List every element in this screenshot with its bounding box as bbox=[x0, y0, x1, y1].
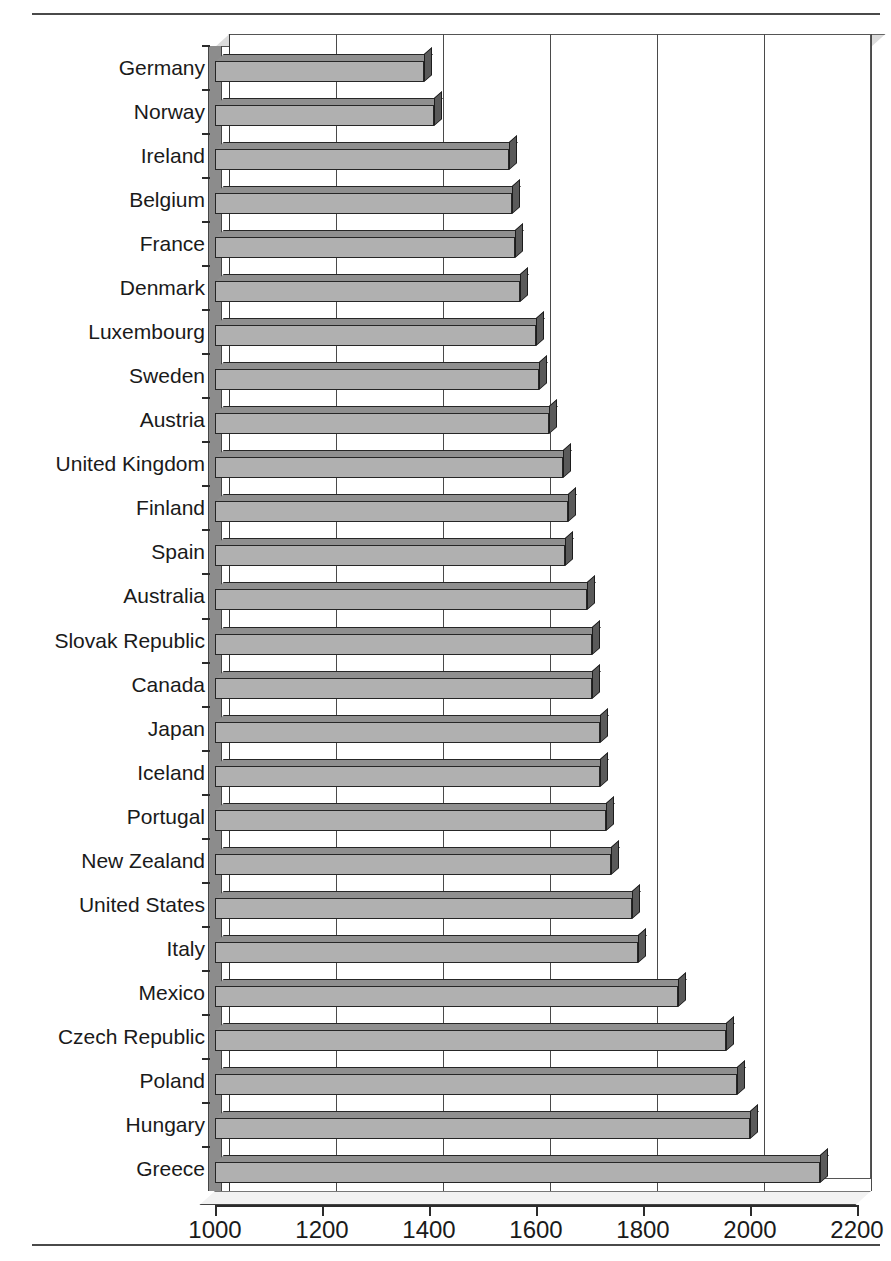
bar-mexico bbox=[215, 979, 691, 1007]
category-label-hungary: Hungary bbox=[5, 1114, 205, 1135]
bar-australia bbox=[215, 582, 600, 610]
category-label-new-zealand: New Zealand bbox=[5, 850, 205, 871]
bar-poland bbox=[215, 1067, 750, 1095]
category-label-japan: Japan bbox=[5, 718, 205, 739]
bar-slovak-republic bbox=[215, 627, 605, 655]
bar-belgium bbox=[215, 186, 525, 214]
bar-front-face bbox=[215, 1030, 726, 1051]
x-tick-label-1200: 1200 bbox=[277, 1216, 367, 1244]
y-axis-category-labels: GermanyNorwayIrelandBelgiumFranceDenmark… bbox=[0, 30, 205, 1230]
bar-germany bbox=[215, 54, 437, 82]
bar-end-cap bbox=[600, 708, 608, 743]
bar-front-face bbox=[215, 61, 424, 82]
y-tick bbox=[202, 573, 210, 575]
bar-front-face bbox=[215, 1162, 820, 1183]
bar-front-face bbox=[215, 545, 565, 566]
bar-denmark bbox=[215, 274, 533, 302]
bar-spain bbox=[215, 538, 578, 566]
category-label-luxembourg: Luxembourg bbox=[5, 321, 205, 342]
y-tick bbox=[202, 794, 210, 796]
y-tick bbox=[202, 1058, 210, 1060]
y-tick bbox=[202, 838, 210, 840]
category-label-czech-republic: Czech Republic bbox=[5, 1026, 205, 1047]
category-label-denmark: Denmark bbox=[5, 277, 205, 298]
y-tick bbox=[202, 309, 210, 311]
bar-ireland bbox=[215, 142, 522, 170]
bar-front-face bbox=[215, 678, 592, 699]
category-label-united-kingdom: United Kingdom bbox=[5, 453, 205, 474]
bar-france bbox=[215, 230, 528, 258]
y-tick bbox=[202, 133, 210, 135]
x-tick-label-1800: 1800 bbox=[598, 1216, 688, 1244]
bar-end-cap bbox=[750, 1104, 758, 1139]
y-tick bbox=[202, 45, 210, 47]
bar-united-states bbox=[215, 891, 645, 919]
bar-end-cap bbox=[606, 796, 614, 831]
x-tick-label-1400: 1400 bbox=[384, 1216, 474, 1244]
bar-norway bbox=[215, 98, 447, 126]
bar-front-face bbox=[215, 281, 520, 302]
y-tick bbox=[202, 1102, 210, 1104]
category-label-united-states: United States bbox=[5, 894, 205, 915]
category-label-ireland: Ireland bbox=[5, 145, 205, 166]
bar-end-cap bbox=[509, 135, 517, 170]
x-tick-1600 bbox=[536, 1205, 538, 1216]
category-label-sweden: Sweden bbox=[5, 365, 205, 386]
y-tick bbox=[202, 970, 210, 972]
y-tick bbox=[202, 706, 210, 708]
bar-end-cap bbox=[592, 620, 600, 655]
category-label-mexico: Mexico bbox=[5, 982, 205, 1003]
bar-front-face bbox=[215, 722, 600, 743]
y-tick bbox=[202, 750, 210, 752]
bar-end-cap bbox=[820, 1148, 828, 1183]
bar-end-cap bbox=[512, 179, 520, 214]
bar-italy bbox=[215, 935, 651, 963]
top-horizontal-rule bbox=[32, 13, 880, 15]
bar-front-face bbox=[215, 986, 678, 1007]
y-tick bbox=[202, 353, 210, 355]
bar-end-cap bbox=[565, 531, 573, 566]
category-label-france: France bbox=[5, 233, 205, 254]
bar-luxembourg bbox=[215, 318, 549, 346]
bar-front-face bbox=[215, 854, 611, 875]
category-label-spain: Spain bbox=[5, 541, 205, 562]
bar-end-cap bbox=[536, 311, 544, 346]
y-tick bbox=[202, 441, 210, 443]
bar-end-cap bbox=[549, 399, 557, 434]
x-tick-2200 bbox=[857, 1205, 859, 1216]
bar-portugal bbox=[215, 803, 619, 831]
bar-end-cap bbox=[515, 223, 523, 258]
category-label-germany: Germany bbox=[5, 57, 205, 78]
chart-plot-area bbox=[215, 46, 857, 1191]
category-label-iceland: Iceland bbox=[5, 762, 205, 783]
category-label-finland: Finland bbox=[5, 497, 205, 518]
bar-end-cap bbox=[539, 355, 547, 390]
bar-front-face bbox=[215, 413, 549, 434]
x-tick-1400 bbox=[429, 1205, 431, 1216]
bar-end-cap bbox=[520, 267, 528, 302]
y-tick bbox=[202, 89, 210, 91]
bar-hungary bbox=[215, 1111, 763, 1139]
x-tick-label-1600: 1600 bbox=[491, 1216, 581, 1244]
category-label-poland: Poland bbox=[5, 1070, 205, 1091]
bar-new-zealand bbox=[215, 847, 624, 875]
bottom-horizontal-rule bbox=[32, 1244, 880, 1246]
bar-end-cap bbox=[434, 91, 442, 126]
y-tick bbox=[202, 265, 210, 267]
x-tick-label-1000: 1000 bbox=[170, 1216, 260, 1244]
bar-end-cap bbox=[587, 576, 595, 611]
category-label-austria: Austria bbox=[5, 409, 205, 430]
y-tick bbox=[202, 397, 210, 399]
x-tick-label-2000: 2000 bbox=[705, 1216, 795, 1244]
bar-end-cap bbox=[638, 928, 646, 963]
bar-front-face bbox=[215, 898, 632, 919]
bar-japan bbox=[215, 715, 613, 743]
y-tick bbox=[202, 1014, 210, 1016]
bar-front-face bbox=[215, 1074, 737, 1095]
bar-end-cap bbox=[600, 752, 608, 787]
bar-end-cap bbox=[632, 884, 640, 919]
x-tick-label-2200: 2200 bbox=[812, 1216, 891, 1244]
bar-front-face bbox=[215, 193, 512, 214]
bar-end-cap bbox=[737, 1060, 745, 1095]
bar-sweden bbox=[215, 362, 552, 390]
